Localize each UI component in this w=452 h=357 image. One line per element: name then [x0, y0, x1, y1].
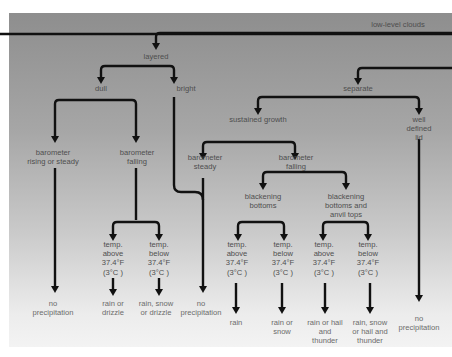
node-blackening-bottoms: blackening bottoms: [245, 192, 281, 210]
connector-to-dull-bright: [101, 66, 174, 79]
arrowhead-out-np1: [51, 286, 59, 293]
node-separate: separate: [343, 84, 373, 93]
node-temp-above-1: temp. above 37.4°F (3°C ): [102, 240, 124, 277]
arrowhead-out-2: [155, 289, 163, 296]
arrowhead-out-np3: [415, 295, 423, 302]
node-barometer-steady: barometer steady: [188, 153, 223, 171]
connector-dull-branches: [55, 100, 136, 138]
node-blackening-bottoms-anvil-tops: blackening bottoms and anvil tops: [325, 192, 367, 220]
arrowhead-out-6: [366, 307, 374, 314]
node-layered: layered: [144, 52, 169, 61]
node-barometer-rising-or-steady: barometer rising or steady: [27, 148, 79, 166]
node-barometer-falling-dull: barometer falling: [120, 148, 155, 166]
outcome-no-precipitation-2: no precipitation: [181, 299, 222, 317]
arrowhead-ba: [342, 183, 350, 190]
node-well-defined-lid: well defined lid: [403, 115, 436, 143]
connector-bright-to-steady: [174, 97, 203, 288]
arrowhead-layered: [152, 43, 160, 50]
node-temp-below-1: temp. below 37.4°F (3°C ): [148, 240, 170, 277]
arrowhead-baro-falling: [132, 136, 140, 143]
node-temp-above-3: temp. above 37.4°F (3°C ): [313, 240, 335, 277]
node-low-level-clouds: low-level clouds: [371, 20, 425, 29]
connector-bb-temp-branches: [238, 222, 284, 236]
connector-blackening-branches: [263, 172, 346, 185]
connector-separate-branches: [258, 97, 419, 110]
node-temp-below-3: temp. below 37.4°F (3°C ): [357, 240, 379, 277]
node-sustained-growth: sustained growth: [229, 115, 286, 124]
connector-to-separate: [358, 68, 452, 80]
outcome-no-precipitation-3: no precipitation: [399, 314, 440, 332]
node-barometer-falling-growth: barometer falling: [279, 153, 314, 171]
connector-falling-temp-branches: [113, 168, 159, 236]
node-bright: bright: [177, 84, 196, 93]
outcome-no-precipitation-1: no precipitation: [33, 299, 74, 317]
outcome-rain-snow-or-drizzle: rain, snow or drizzle: [139, 299, 174, 317]
node-temp-below-2: temp. below 37.4°F (3°C ): [272, 240, 294, 277]
outcome-rain-or-hail-and-thunder: rain or hail and thunder: [307, 318, 342, 346]
arrowhead-bright: [170, 77, 178, 84]
arrowhead-out-4: [278, 307, 286, 314]
arrowhead-bb: [259, 183, 267, 190]
arrowhead-out-1: [109, 289, 117, 296]
arrowhead-out-5: [321, 307, 329, 314]
arrowhead-dull: [97, 77, 105, 84]
outcome-rain-snow-or-hail-and-thunder: rain, snow or hail and thunder: [352, 318, 387, 346]
arrowhead-out-3: [232, 307, 240, 314]
outcome-rain-or-snow: rain or snow: [271, 318, 293, 336]
connector-ba-temp-branches: [323, 222, 368, 236]
outcome-rain: rain: [230, 318, 243, 327]
node-temp-above-2: temp. above 37.4°F (3°C ): [226, 240, 248, 277]
arrowhead-lid: [415, 108, 423, 115]
outcome-rain-or-drizzle: rain or drizzle: [102, 299, 124, 317]
arrowhead-sustained: [254, 108, 262, 115]
arrowhead-baro-rising: [51, 136, 59, 143]
node-dull: dull: [95, 84, 107, 93]
arrowhead-out-np2: [199, 286, 207, 293]
